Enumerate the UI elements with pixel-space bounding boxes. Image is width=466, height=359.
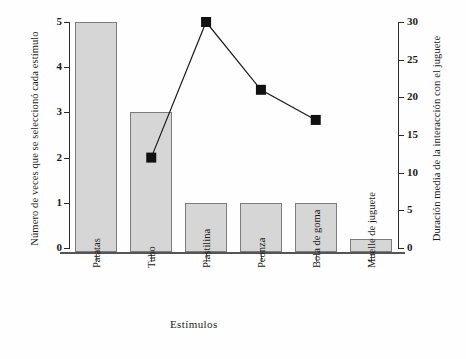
data-point-marker <box>311 115 321 125</box>
right-tick-mark <box>399 97 404 98</box>
right-tick-mark <box>399 22 404 23</box>
left-tick-label: 0 <box>42 242 62 253</box>
line-path <box>151 22 316 158</box>
category-label: Patatas <box>91 238 102 268</box>
left-tick-label: 3 <box>42 106 62 117</box>
left-tick-mark <box>64 67 69 68</box>
left-tick-mark <box>64 203 69 204</box>
left-tick-mark <box>64 112 69 113</box>
right-tick-mark <box>399 135 404 136</box>
right-tick-label: 25 <box>407 54 427 65</box>
right-tick-label: 30 <box>407 16 427 27</box>
x-axis-title: Estímulos <box>170 318 218 330</box>
data-point-marker <box>256 85 266 95</box>
left-tick-label: 5 <box>42 16 62 27</box>
category-label: Muelle de juguete <box>366 192 377 268</box>
left-tick-mark <box>64 22 69 23</box>
bar <box>130 112 172 252</box>
left-tick-label: 1 <box>42 197 62 208</box>
right-tick-label: 5 <box>407 204 427 215</box>
left-tick-label: 4 <box>42 61 62 72</box>
left-tick-mark <box>64 248 69 249</box>
right-tick-label: 20 <box>407 91 427 102</box>
right-tick-mark <box>399 210 404 211</box>
left-axis-title: Número de veces que se seleccionó cada e… <box>29 19 40 259</box>
left-tick-mark <box>64 158 69 159</box>
right-tick-mark <box>399 60 404 61</box>
right-tick-mark <box>399 248 404 249</box>
data-point-marker <box>201 17 211 27</box>
category-label: Plastilina <box>201 229 212 268</box>
left-tick-label: 2 <box>42 152 62 163</box>
right-tick-label: 10 <box>407 167 427 178</box>
category-label: Peonza <box>256 238 267 268</box>
bar <box>75 22 117 252</box>
right-axis-title: Duración media de la interacción con el … <box>431 19 442 259</box>
x-axis-spine <box>60 252 405 254</box>
right-tick-label: 15 <box>407 129 427 140</box>
category-label: Bola de goma <box>311 210 322 268</box>
chart-figure: Número de veces que se seleccionó cada e… <box>0 0 466 359</box>
right-tick-mark <box>399 173 404 174</box>
right-tick-label: 0 <box>407 242 427 253</box>
category-label: Tubo <box>146 246 157 268</box>
left-axis-spine <box>69 22 70 249</box>
